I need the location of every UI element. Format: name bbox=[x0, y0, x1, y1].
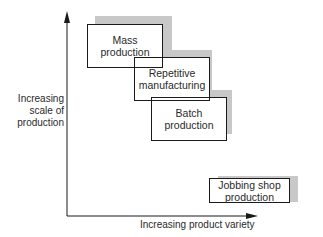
box-jobbing-shop-production: Jobbing shop production bbox=[209, 178, 290, 203]
y-axis-label-line: Increasing bbox=[6, 93, 64, 105]
y-axis-label-line: scale of bbox=[6, 105, 64, 117]
y-axis-arrow-icon bbox=[64, 11, 70, 23]
box-repetitive-outline-overlay bbox=[134, 57, 210, 101]
x-axis-label: Increasing product variety bbox=[140, 219, 255, 231]
box-batch-production: Batch production bbox=[151, 97, 227, 141]
box-line: production bbox=[164, 119, 213, 131]
box-line: Batch bbox=[164, 107, 213, 119]
box-line: production bbox=[218, 191, 280, 203]
box-line: Jobbing shop bbox=[218, 179, 280, 191]
y-axis-label-line: production bbox=[6, 117, 64, 129]
y-axis-label: Increasing scale of production bbox=[6, 93, 64, 129]
